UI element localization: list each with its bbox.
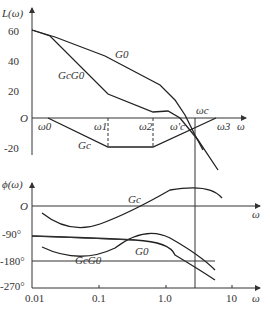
- omega0-label: ω0: [38, 120, 52, 132]
- gc-phase-label: Gc: [128, 193, 141, 205]
- gc-magnitude-curve: [48, 118, 216, 147]
- phase-ytick-neg270: -270°: [0, 280, 25, 292]
- ytick-40: 40: [8, 55, 20, 67]
- bode-diagram: L(ω) 60 40 20 O -20 G0 GcG0 Gc ω0 ω1 ω2 …: [0, 0, 270, 309]
- g0-phase-label: G0: [135, 245, 149, 257]
- phase-plot: ϕ(ω) O -90° -180° -270° Gc G0 GcG0 0.01 …: [0, 178, 260, 304]
- omega-c-prime-label: ω'c: [170, 120, 185, 132]
- omega1-label: ω1: [94, 120, 107, 132]
- magnitude-xlabel: ω: [237, 120, 245, 132]
- ytick-60: 60: [8, 25, 20, 37]
- gcg0-label: GcG0: [58, 69, 85, 81]
- omega3-label: ω3: [217, 120, 231, 132]
- omega-c-label: ωc: [196, 104, 209, 116]
- magnitude-ylabel: L(ω): [1, 7, 24, 20]
- bottom-xlabel: ω: [252, 292, 260, 304]
- xtick-01: 0.1: [92, 292, 106, 304]
- g0-label: G0: [115, 48, 129, 60]
- xtick-001: 0.01: [25, 292, 44, 304]
- phase-ytick-neg180: -180°: [0, 255, 25, 267]
- phase-ylabel: ϕ(ω): [2, 178, 23, 191]
- ytick-origin: O: [20, 112, 28, 124]
- magnitude-plot: L(ω) 60 40 20 O -20 G0 GcG0 Gc ω0 ω1 ω2 …: [1, 7, 246, 288]
- gcg0-phase-curve: [42, 233, 215, 270]
- phase-ytick-origin: O: [20, 200, 28, 212]
- xtick-10: 10: [226, 292, 238, 304]
- ytick-neg20: -20: [4, 142, 19, 154]
- gc-label: Gc: [78, 139, 91, 151]
- gcg0-phase-label: GcG0: [75, 254, 102, 266]
- phase-xlabel: ω: [252, 208, 260, 220]
- phase-ytick-neg90: -90°: [2, 228, 21, 240]
- ytick-20: 20: [8, 85, 20, 97]
- omega2-label: ω2: [139, 120, 153, 132]
- xtick-1: 1.0: [158, 292, 172, 304]
- minus90-reference: [32, 236, 135, 240]
